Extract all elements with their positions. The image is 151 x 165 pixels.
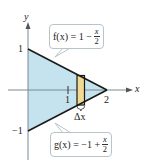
g-callout: g(x) = −1 + x 2 bbox=[50, 132, 112, 157]
f-fraction: x 2 bbox=[94, 27, 100, 46]
x-axis-label: x bbox=[135, 84, 139, 94]
g-formula-lhs: g(x) = −1 + bbox=[54, 139, 100, 150]
y-axis-label: y bbox=[24, 12, 28, 22]
g-fraction-denominator: 2 bbox=[103, 145, 107, 154]
delta-x-label: Δx bbox=[74, 112, 85, 122]
x-tick-label-1: 1 bbox=[65, 95, 70, 105]
y-axis-arrow-icon bbox=[26, 22, 31, 29]
y-tick-label-neg1: −1 bbox=[12, 126, 23, 136]
f-callout: f(x) = 1 − x 2 bbox=[49, 24, 104, 49]
x-axis-arrow-icon bbox=[126, 88, 133, 93]
g-fraction: x 2 bbox=[102, 135, 108, 154]
y-tick-label-1: 1 bbox=[18, 44, 23, 54]
f-formula-lhs: f(x) = 1 − bbox=[53, 31, 92, 42]
x-tick-label-2: 2 bbox=[104, 95, 109, 105]
f-fraction-denominator: 2 bbox=[95, 37, 99, 46]
representative-rectangle bbox=[77, 76, 85, 106]
